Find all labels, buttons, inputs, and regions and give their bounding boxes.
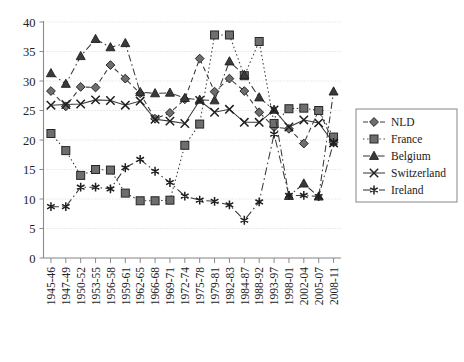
- y-tick-label: 15: [23, 163, 36, 177]
- x-tick-label: 1982-83: [224, 267, 236, 306]
- data-point-triangle: [61, 79, 70, 87]
- data-point-triangle: [225, 57, 234, 65]
- x-tick-label: 1947-49: [60, 267, 72, 306]
- data-point-triangle: [255, 93, 264, 101]
- data-point-square: [225, 31, 233, 39]
- data-point-diamond: [91, 83, 100, 92]
- y-tick-label: 0: [29, 252, 35, 266]
- data-point-square: [77, 171, 85, 179]
- data-point-square: [121, 189, 129, 197]
- legend-label: Ireland: [391, 184, 424, 196]
- data-point-square: [136, 197, 144, 205]
- y-tick-label: 20: [23, 134, 36, 148]
- data-point-square: [92, 166, 100, 174]
- x-tick-label: 1945-46: [45, 267, 57, 306]
- x-tick-label: 1966-68: [149, 267, 161, 306]
- x-tick-label: 1972-74: [179, 267, 191, 306]
- data-point-triangle: [210, 96, 219, 104]
- legend-label: NLD: [391, 116, 415, 128]
- x-tick-label: 1979-81: [209, 267, 221, 306]
- data-point-asterisk: [166, 178, 174, 187]
- x-tick-label: 2008-11: [328, 267, 340, 305]
- series-switzerland: [47, 96, 338, 147]
- x-tick-label: 1950-52: [75, 267, 87, 306]
- y-tick-label: 5: [29, 222, 35, 236]
- data-point-asterisk: [151, 167, 159, 176]
- data-point-asterisk: [122, 163, 130, 172]
- data-point-triangle: [165, 88, 174, 96]
- data-point-square: [255, 37, 263, 45]
- data-point-triangle: [121, 38, 130, 46]
- data-point-square: [151, 197, 159, 205]
- legend-label: France: [391, 133, 422, 145]
- data-point-asterisk: [136, 155, 144, 164]
- x-tick-label: 1953-55: [90, 267, 102, 306]
- series-line: [51, 35, 334, 201]
- x-tick-label: 1993-97: [268, 267, 280, 306]
- x-tick-label: 2002-04: [298, 267, 310, 306]
- data-point-diamond: [210, 87, 219, 96]
- x-tick-label: 1959-61: [120, 267, 132, 306]
- x-tick-label: 1969-71: [164, 267, 176, 306]
- data-point-square: [196, 120, 204, 128]
- data-point-triangle: [299, 179, 308, 187]
- series-ireland: [47, 130, 337, 225]
- x-tick-label: 1988-92: [253, 267, 265, 306]
- chart-legend: NLDFranceBelgiumSwitzerlandIreland: [356, 109, 457, 202]
- x-tick-label: 1962-65: [134, 267, 146, 306]
- data-point-square: [315, 107, 323, 115]
- data-point-asterisk: [270, 130, 278, 139]
- legend-label: Switzerland: [391, 167, 446, 179]
- data-point-square: [370, 135, 378, 143]
- data-point-cross: [225, 105, 233, 113]
- x-axis-tick-labels: 1945-461947-491950-521953-551956-581959-…: [45, 267, 340, 306]
- data-point-triangle: [91, 34, 100, 42]
- data-series-layer: [46, 31, 338, 225]
- data-point-diamond: [76, 83, 85, 92]
- data-point-cross: [314, 119, 322, 127]
- data-point-square: [166, 196, 174, 204]
- y-tick-label: 10: [23, 193, 36, 207]
- y-tick-label: 30: [23, 75, 36, 89]
- x-tick-label: 1984-87: [239, 267, 251, 306]
- chart-container: 0510152025303540 1945-461947-491950-5219…: [0, 0, 464, 362]
- y-tick-label: 35: [23, 45, 36, 59]
- data-point-diamond: [106, 61, 115, 70]
- data-point-square: [106, 166, 114, 174]
- series-line: [51, 134, 334, 220]
- gridlines: [44, 22, 342, 258]
- x-tick-label: 1998-01: [283, 267, 295, 306]
- data-point-triangle: [151, 89, 160, 97]
- series-belgium: [46, 34, 338, 200]
- data-point-cross: [300, 116, 308, 124]
- data-point-square: [285, 105, 293, 113]
- data-point-square: [62, 147, 70, 155]
- data-point-triangle: [46, 69, 55, 77]
- data-point-triangle: [329, 87, 338, 95]
- data-point-square: [211, 31, 219, 39]
- data-point-diamond: [195, 54, 204, 63]
- series-france: [47, 31, 338, 205]
- y-tick-label: 40: [23, 16, 36, 30]
- line-chart: 0510152025303540 1945-461947-491950-5219…: [0, 0, 464, 362]
- data-point-cross: [210, 108, 218, 116]
- data-point-square: [47, 130, 55, 138]
- y-tick-label: 25: [23, 104, 36, 118]
- legend-item-france[interactable]: France: [363, 133, 422, 145]
- data-point-square: [300, 104, 308, 112]
- x-tick-label: 1956-58: [105, 267, 117, 306]
- axes: [40, 21, 342, 263]
- data-point-cross: [121, 101, 129, 109]
- y-axis-tick-labels: 0510152025303540: [23, 16, 36, 266]
- x-tick-label: 1975-78: [194, 267, 206, 306]
- x-tick-label: 2005-07: [313, 267, 325, 306]
- legend-label: Belgium: [391, 150, 431, 163]
- data-point-square: [181, 141, 189, 149]
